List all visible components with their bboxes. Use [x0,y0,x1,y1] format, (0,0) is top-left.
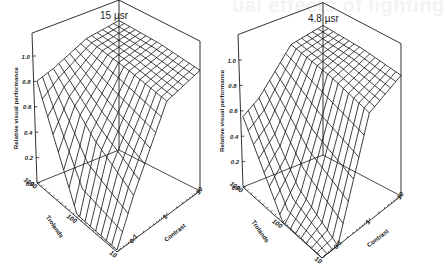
z-axis-label: Relative visual performance [218,69,225,152]
trolands-tick-label: 10 [314,255,324,265]
trolands-tick-label: 1000 [229,180,245,194]
z-tick-label: 0.8 [228,83,237,89]
surface-mesh [243,26,401,259]
trolands-axis-label: Trolands [250,219,271,245]
chart-title-right: 4.8 µsr [308,13,339,24]
z-tick-label: 0.2 [231,159,240,165]
trolands-axis: 101001000Trolands [229,180,325,265]
trolands-tick-label: 100 [271,217,284,229]
z-tick-label: 1.0 [227,58,236,64]
z-tick-label: 0.4 [230,134,239,140]
z-axis-ticks: 0.00.20.40.60.81.0Relative visual perfor… [218,58,246,191]
chart-title-left: 15 µsr [100,10,128,21]
contrast-axis-label: Contrast [365,227,389,248]
z-tick-label: 0.6 [229,108,238,114]
